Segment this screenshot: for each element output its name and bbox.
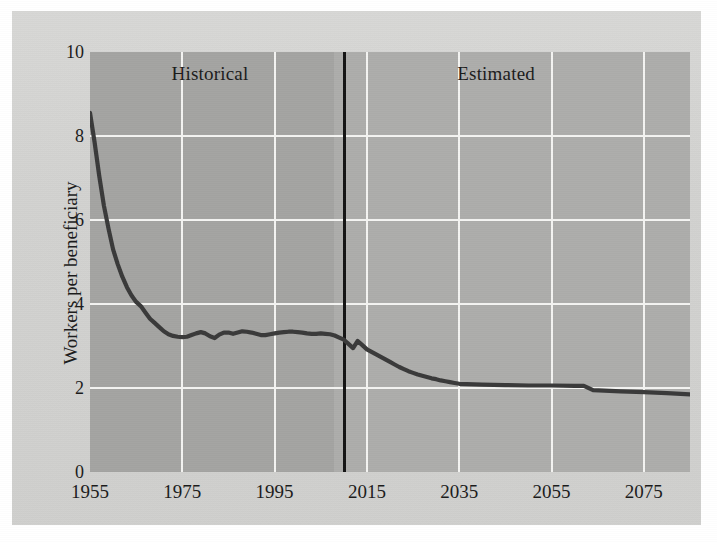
y-axis-label: Workers per beneficiary [60, 123, 82, 423]
plot-area [90, 52, 690, 472]
y-tick-label-10: 10 [50, 42, 84, 63]
x-tick-label-2075: 2075 [625, 481, 663, 503]
y-tick-label-0: 0 [50, 462, 84, 483]
x-tick-label-1955: 1955 [71, 481, 109, 503]
annotation-estimated: Estimated [457, 63, 535, 85]
x-tick-label-2035: 2035 [440, 481, 478, 503]
y-axis-label-wrapper: Workers per beneficiary [18, 0, 52, 542]
annotation-historical: Historical [172, 63, 249, 85]
x-axis-ticks: 1955197519952015203520552075 [0, 481, 717, 521]
figure-canvas: HistoricalEstimated 0246810 195519751995… [0, 0, 717, 542]
x-tick-label-2055: 2055 [533, 481, 571, 503]
series-line-workers-per-beneficiary [90, 52, 690, 472]
x-tick-label-1975: 1975 [163, 481, 201, 503]
x-tick-label-2015: 2015 [348, 481, 386, 503]
x-tick-label-1995: 1995 [256, 481, 294, 503]
